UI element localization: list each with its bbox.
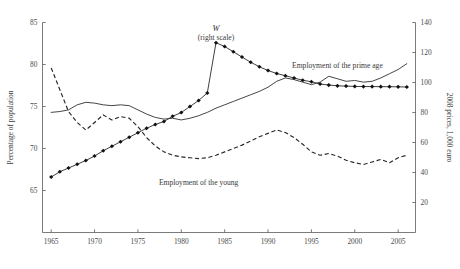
series-marker	[309, 80, 313, 84]
series-marker	[344, 84, 348, 88]
y2-tick-label: 60	[421, 138, 429, 147]
y-tick-label: 85	[30, 18, 38, 27]
series-marker	[136, 131, 140, 135]
series-marker	[101, 149, 105, 153]
series-marker	[257, 65, 261, 69]
plot-frame	[43, 23, 416, 233]
series-marker	[49, 175, 53, 179]
left-axis-title: Percentage of population	[6, 90, 15, 164]
series-marker	[387, 85, 391, 89]
series-marker	[223, 44, 227, 48]
series-marker	[327, 83, 331, 87]
series-marker	[396, 85, 400, 89]
line-chart: 1965197019751980198519901995200020056570…	[0, 0, 460, 269]
y2-tick-label: 140	[421, 18, 432, 27]
series-marker	[110, 144, 114, 148]
series-marker	[58, 170, 62, 174]
right-axis-title: 2008 prices, 1,000 euro	[445, 93, 454, 163]
series-marker	[231, 50, 235, 54]
y-tick-label: 70	[30, 144, 38, 153]
series-marker	[240, 55, 244, 59]
series-marker	[75, 162, 79, 166]
x-tick-label: 2000	[347, 237, 362, 246]
x-tick-label: 1985	[217, 237, 232, 246]
series-marker	[84, 158, 88, 162]
axis-ticks	[43, 23, 416, 233]
y2-tick-label: 100	[421, 78, 432, 87]
y2-tick-label: 20	[421, 198, 429, 207]
series-marker	[92, 154, 96, 158]
x-tick-label: 1990	[261, 237, 276, 246]
series-marker	[283, 74, 287, 78]
chart-container: 1965197019751980198519901995200020056570…	[0, 0, 460, 269]
y2-tick-label: 40	[421, 168, 429, 177]
series-marker	[353, 84, 357, 88]
series-marker	[162, 119, 166, 123]
series-annotations: W(right scale)Employment of the prime ag…	[159, 24, 384, 188]
series-marker	[335, 84, 339, 88]
x-tick-label: 1975	[131, 237, 146, 246]
series-label: W	[212, 24, 220, 33]
series-marker	[405, 85, 409, 89]
series-marker	[266, 68, 270, 72]
y-tick-label: 80	[30, 60, 38, 69]
series-label: Employment of the prime age	[292, 61, 383, 70]
x-tick-label: 2005	[391, 237, 406, 246]
series-label-sub: (right scale)	[198, 33, 235, 42]
series-marker	[249, 60, 253, 64]
y-tick-label: 65	[30, 186, 38, 195]
series-marker	[370, 84, 374, 88]
series-marker	[275, 71, 279, 75]
x-tick-label: 1965	[44, 237, 59, 246]
series-marker	[171, 114, 175, 118]
series-marker	[127, 135, 131, 139]
x-tick-label: 1995	[304, 237, 319, 246]
x-tick-label: 1970	[87, 237, 102, 246]
series-marker	[379, 85, 383, 89]
series-path	[51, 64, 407, 120]
x-tick-label: 1980	[174, 237, 189, 246]
axis-tick-labels: 1965197019751980198519901995200020056570…	[30, 18, 432, 246]
series-marker	[118, 140, 122, 144]
series-marker	[361, 84, 365, 88]
series-marker	[153, 122, 157, 126]
y-tick-label: 75	[30, 102, 38, 111]
series-marker	[66, 166, 70, 170]
series-label: Employment of the young	[159, 178, 239, 187]
axis-titles: Percentage of population2008 prices, 1,0…	[6, 90, 454, 164]
y2-tick-label: 80	[421, 108, 429, 117]
plot-frame-path	[43, 23, 416, 233]
series-marker	[144, 126, 148, 130]
y2-tick-label: 120	[421, 48, 432, 57]
